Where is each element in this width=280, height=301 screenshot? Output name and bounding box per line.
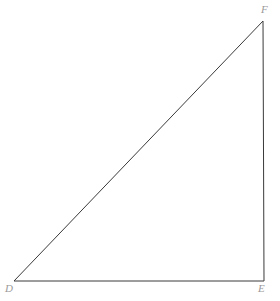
triangle-def-outline <box>14 21 264 281</box>
vertex-label-f: F <box>261 4 268 15</box>
vertex-label-e: E <box>258 283 265 294</box>
triangle-figure-canvas: D E F <box>0 0 280 301</box>
vertex-label-d: D <box>5 283 13 294</box>
triangle-diagram <box>0 0 280 301</box>
